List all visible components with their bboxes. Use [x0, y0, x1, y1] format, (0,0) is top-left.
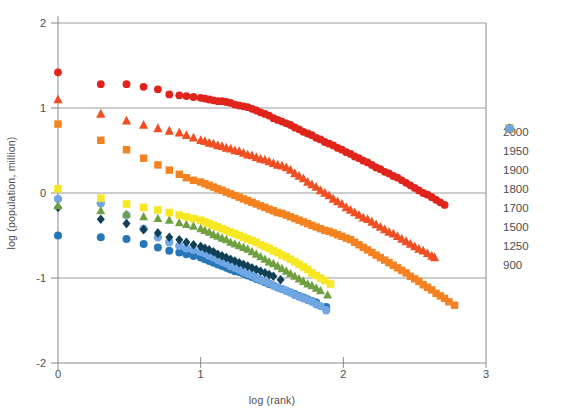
y-tick-label: -1	[36, 272, 46, 284]
y-axis-title: log (population, million)	[5, 137, 17, 250]
x-tick-label: 2	[340, 368, 346, 380]
legend-label: 1900	[503, 164, 529, 176]
legend-item-1250: 1250	[503, 236, 529, 255]
legend-item-1900: 1900	[503, 160, 529, 179]
legend-item-1700: 1700	[503, 198, 529, 217]
legend-item-900: 900	[503, 255, 529, 274]
plot-area: 210-1-20123	[0, 0, 566, 415]
legend-label: 900	[503, 259, 522, 271]
y-tick-label: 1	[40, 102, 46, 114]
legend-item-1500: 1500	[503, 217, 529, 236]
x-tick-label: 0	[55, 368, 61, 380]
legend-label: 1950	[503, 145, 529, 157]
y-tick-label: -2	[36, 357, 46, 369]
x-tick-label: 3	[483, 368, 489, 380]
x-axis-title: log (rank)	[249, 394, 295, 406]
legend-item-1800: 1800	[503, 179, 529, 198]
series-2000-points	[54, 68, 448, 208]
x-tick-label: 1	[198, 368, 204, 380]
legend: 2000195019001800170015001250900	[503, 122, 529, 274]
y-tick-label: 2	[40, 17, 46, 29]
y-tick-label: 0	[40, 187, 46, 199]
legend-label: 1500	[503, 221, 529, 233]
legend-label: 1700	[503, 202, 529, 214]
circle-marker-icon	[503, 122, 516, 135]
legend-item-1950: 1950	[503, 141, 529, 160]
rank-size-chart: 210-1-20123 log (population, million) lo…	[0, 0, 566, 415]
legend-label: 1800	[503, 183, 529, 195]
legend-label: 1250	[503, 240, 529, 252]
